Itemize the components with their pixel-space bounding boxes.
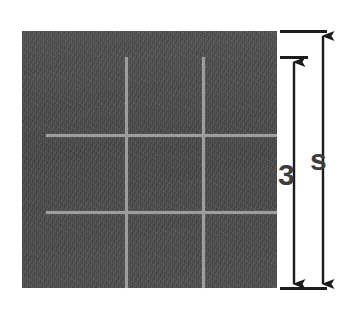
grid-line-horizontal-2 (46, 211, 277, 214)
grid-line-vertical-2 (202, 57, 205, 288)
shaded-square (22, 31, 277, 288)
dimension-label-inner: 3 (278, 160, 295, 190)
geometry-figure: 3 s (0, 0, 349, 310)
grid-line-horizontal-1 (46, 134, 277, 137)
grid-line-vertical-1 (125, 57, 128, 288)
dimension-label-outer: s (310, 145, 327, 175)
